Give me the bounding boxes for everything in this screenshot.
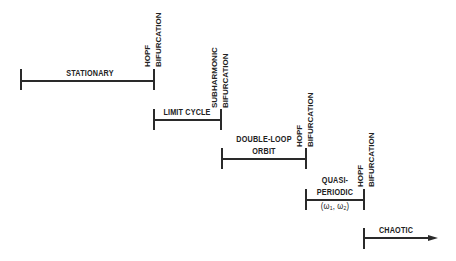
double-loop-end-tick	[305, 148, 307, 169]
hopf-2-label-line2: BIFURCATION	[307, 92, 316, 147]
quasi-periodic-label-line2: PERIODIC	[312, 187, 358, 197]
hopf-2-label-line1: HOPF	[296, 125, 305, 147]
quasi-periodic-frequencies: (ω1, ω2)	[310, 201, 359, 211]
hopf-3-label-line1: HOPF	[357, 165, 366, 187]
chaotic-label: CHAOTIC	[376, 225, 417, 235]
hopf-3-label-line2: BIFURCATION	[368, 132, 377, 187]
double-loop-label-line2: ORBIT	[231, 146, 297, 156]
quasi-periodic-label-line1: QUASI-	[312, 175, 358, 185]
stationary-end-tick	[153, 69, 155, 90]
double-loop-label-line1: DOUBLE-LOOP	[231, 134, 297, 144]
quasi-periodic-end-tick	[363, 189, 365, 210]
limit-cycle-label: LIMIT CYCLE	[161, 107, 214, 117]
subharmonic-label-line1: SUBHARMONIC	[211, 47, 220, 108]
limit-cycle-line	[153, 119, 221, 121]
stationary-line	[20, 80, 155, 82]
hopf-1-label-line1: HOPF	[144, 45, 153, 67]
hopf-1-label-line2: BIFURCATION	[155, 12, 164, 67]
limit-cycle-end-tick	[220, 109, 222, 130]
subharmonic-label-line2: BIFURCATION	[222, 53, 231, 108]
arrow-right-icon	[428, 235, 438, 241]
chaotic-line	[363, 237, 429, 239]
double-loop-line	[221, 158, 306, 160]
stationary-label: STATIONARY	[56, 68, 124, 78]
